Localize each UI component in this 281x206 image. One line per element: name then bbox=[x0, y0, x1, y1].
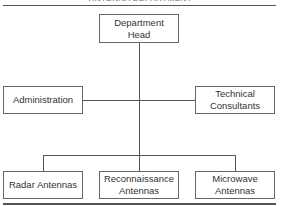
department-head-box: Department Head bbox=[99, 14, 179, 43]
administration-label: Administration bbox=[13, 94, 73, 106]
trunk-connector bbox=[139, 42, 140, 171]
subordinate-bus bbox=[43, 155, 236, 156]
reconnaissance-antennas-label: Reconnaissance Antennas bbox=[104, 173, 174, 197]
technical-consultants-label: Technical Consultants bbox=[210, 88, 260, 112]
microwave-antennas-label: Microwave Antennas bbox=[212, 173, 257, 197]
radar-antennas-box: Radar Antennas bbox=[3, 171, 83, 199]
staff-connector bbox=[83, 100, 195, 101]
administration-box: Administration bbox=[3, 86, 83, 114]
top-rule bbox=[3, 5, 276, 6]
microwave-drop bbox=[235, 155, 236, 171]
bottom-rule bbox=[3, 203, 276, 205]
microwave-antennas-box: Microwave Antennas bbox=[195, 171, 275, 199]
clipped-title: ANTENNA DEPARTMENT bbox=[0, 0, 281, 3]
radar-antennas-label: Radar Antennas bbox=[9, 179, 77, 191]
technical-consultants-box: Technical Consultants bbox=[195, 86, 275, 114]
radar-drop bbox=[43, 155, 44, 171]
reconnaissance-antennas-box: Reconnaissance Antennas bbox=[99, 171, 179, 199]
department-head-label: Department Head bbox=[114, 17, 164, 41]
